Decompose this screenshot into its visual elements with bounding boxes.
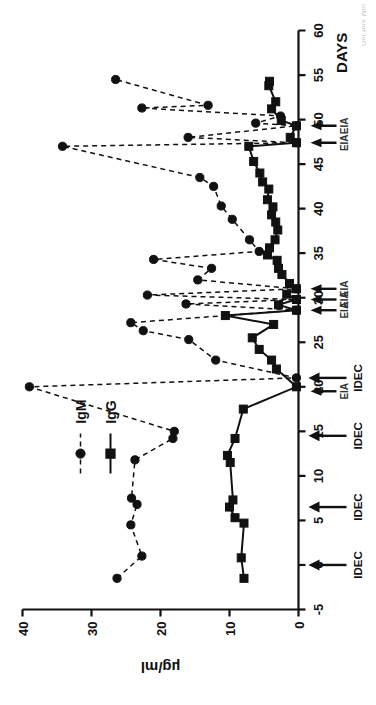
annotation-arrowhead-eia bbox=[310, 305, 321, 314]
data-point-igm bbox=[137, 551, 145, 559]
data-point-igm bbox=[126, 520, 134, 528]
figure-page: -5051015202530354045505560DAYS010203040µ… bbox=[0, 0, 376, 705]
data-point-igm bbox=[251, 119, 259, 127]
data-point-igg bbox=[273, 256, 281, 264]
x-axis-tick-label: 25 bbox=[310, 335, 325, 349]
data-point-igm bbox=[130, 455, 138, 463]
data-point-igm bbox=[207, 264, 215, 272]
data-point-igg bbox=[239, 405, 247, 413]
annotation-label-idec: IDEC bbox=[351, 551, 363, 578]
x-axis-tick-label: 40 bbox=[310, 201, 325, 215]
data-point-igm bbox=[143, 290, 151, 298]
y-axis-title: µg/ml bbox=[140, 658, 179, 675]
legend-marker-igg bbox=[105, 449, 114, 458]
data-point-igg bbox=[263, 195, 271, 203]
data-point-igm bbox=[139, 326, 147, 334]
annotation-label-eia: EIA bbox=[338, 280, 349, 297]
x-axis-title: DAYS bbox=[332, 32, 349, 72]
data-point-igm bbox=[217, 201, 225, 209]
legend-label-igm: IgM bbox=[72, 399, 88, 423]
data-point-igg bbox=[292, 382, 300, 390]
data-point-igm bbox=[255, 247, 263, 255]
annotation-label-eia: EIA bbox=[338, 382, 349, 399]
data-point-igg bbox=[285, 279, 293, 287]
plot-area: -5051015202530354045505560DAYS010203040µ… bbox=[0, 0, 376, 705]
data-point-igg bbox=[292, 121, 300, 129]
data-point-igg bbox=[231, 434, 239, 442]
data-point-igm bbox=[209, 182, 217, 190]
legend-label-igg: IgG bbox=[102, 400, 118, 423]
data-point-igg bbox=[292, 306, 300, 314]
data-point-igg bbox=[292, 295, 300, 303]
data-point-igm bbox=[170, 427, 178, 435]
x-axis-tick-label: 5 bbox=[310, 516, 325, 523]
data-point-igm bbox=[127, 494, 135, 502]
data-point-igm bbox=[195, 173, 203, 181]
data-point-igg bbox=[231, 513, 239, 521]
caption-edge-text: IgM and IgG bbox=[362, 4, 367, 47]
data-point-igg bbox=[255, 345, 263, 353]
data-point-igm bbox=[204, 101, 212, 109]
data-point-igm bbox=[126, 318, 134, 326]
data-point-igg bbox=[249, 157, 257, 165]
series-line-igm bbox=[29, 79, 296, 578]
x-axis-tick-label: 60 bbox=[310, 23, 325, 37]
rotated-figure-wrapper: -5051015202530354045505560DAYS010203040µ… bbox=[0, 0, 376, 705]
data-point-igm bbox=[149, 255, 157, 263]
annotation-label-idec: IDEC bbox=[351, 422, 363, 449]
data-point-igg bbox=[265, 77, 273, 85]
x-axis-tick-label: 35 bbox=[310, 245, 325, 259]
data-point-igg bbox=[239, 519, 247, 527]
x-axis-tick-label: 55 bbox=[310, 67, 325, 81]
data-point-igg bbox=[286, 133, 294, 141]
caption-edge-fragment: IgM and IgG bbox=[362, 4, 376, 114]
data-point-igm bbox=[137, 103, 145, 111]
y-axis-tick-label: 40 bbox=[15, 621, 30, 635]
annotation-label-idec: IDEC bbox=[351, 364, 363, 391]
data-point-igg bbox=[255, 169, 263, 177]
data-point-igg bbox=[282, 290, 290, 298]
data-point-igm bbox=[58, 142, 66, 150]
data-point-igm bbox=[184, 335, 192, 343]
annotation-label-idec: IDEC bbox=[351, 493, 363, 520]
data-point-igg bbox=[277, 116, 285, 124]
immunoglobulin-time-course-chart: -5051015202530354045505560DAYS010203040µ… bbox=[0, 0, 376, 705]
data-point-igm bbox=[112, 574, 120, 582]
legend-marker-igm bbox=[75, 449, 84, 458]
data-point-igg bbox=[265, 243, 273, 251]
data-point-igg bbox=[274, 300, 282, 308]
y-axis-tick-label: 0 bbox=[291, 621, 306, 628]
data-point-igg bbox=[239, 574, 247, 582]
data-point-igm bbox=[292, 373, 300, 381]
y-axis-tick-label: 20 bbox=[153, 621, 168, 635]
data-point-igg bbox=[237, 553, 245, 561]
x-axis-tick-label: 10 bbox=[310, 468, 325, 482]
data-point-igg bbox=[271, 235, 279, 243]
data-point-igm bbox=[211, 355, 219, 363]
data-point-igg bbox=[267, 356, 275, 364]
data-point-igg bbox=[228, 495, 236, 503]
data-point-igg bbox=[271, 97, 279, 105]
data-point-igg bbox=[267, 210, 275, 218]
chart-stage: -5051015202530354045505560DAYS010203040µ… bbox=[0, 0, 376, 705]
annotation-arrowhead-idec bbox=[308, 501, 319, 512]
y-axis-tick-label: 30 bbox=[84, 621, 99, 635]
data-point-igg bbox=[244, 142, 252, 150]
data-point-igg bbox=[272, 364, 280, 372]
data-point-igm bbox=[111, 75, 119, 83]
x-axis-tick-label: -5 bbox=[310, 603, 325, 615]
data-point-igg bbox=[248, 333, 256, 341]
annotation-label-eia: EIA bbox=[338, 134, 349, 151]
data-point-igg bbox=[273, 226, 281, 234]
data-point-igm bbox=[181, 299, 189, 307]
y-axis-tick-label: 10 bbox=[222, 621, 237, 635]
annotation-arrowhead-eia bbox=[310, 138, 321, 147]
data-point-igg bbox=[269, 320, 277, 328]
data-point-igg bbox=[274, 264, 282, 272]
data-point-igg bbox=[258, 177, 266, 185]
data-point-igg bbox=[223, 451, 231, 459]
annotation-label-eia: EIA bbox=[338, 117, 349, 134]
data-point-igg bbox=[221, 311, 229, 319]
data-point-igm bbox=[193, 275, 201, 283]
x-axis-tick-label: 45 bbox=[310, 156, 325, 170]
